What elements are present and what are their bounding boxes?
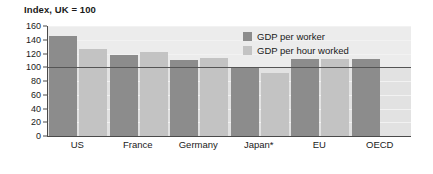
bar	[352, 59, 380, 136]
y-tick-label-100: 100	[0, 62, 41, 72]
bar	[170, 60, 198, 136]
x-axis-label-france: France	[108, 139, 169, 150]
legend-swatch-icon-gdp-per-hour-worked	[243, 46, 252, 55]
y-tick-label-80: 80	[0, 76, 41, 86]
y-tick-mark-160	[43, 26, 47, 27]
legend-item-gdp-per-hour-worked: GDP per hour worked	[243, 44, 349, 57]
bar	[79, 49, 107, 136]
x-axis-label-us: US	[47, 139, 108, 150]
x-axis-label-oecd: OECD	[350, 139, 411, 150]
bar-group	[351, 26, 412, 136]
y-tick-mark-0	[43, 136, 47, 137]
x-axis-label-eu: EU	[289, 139, 350, 150]
y-tick-mark-20	[43, 122, 47, 123]
legend-swatch-icon-gdp-per-worker	[243, 32, 252, 41]
y-tick-mark-40	[43, 108, 47, 109]
y-tick-mark-60	[43, 94, 47, 95]
x-axis-line	[47, 136, 411, 137]
y-tick-label-0: 0	[0, 131, 41, 141]
chart-title: Index, UK = 100	[24, 4, 96, 15]
bar-group	[169, 26, 230, 136]
y-tick-mark-80	[43, 81, 47, 82]
gridline-100	[48, 67, 411, 68]
legend-label-gdp-per-worker: GDP per worker	[257, 31, 325, 42]
bar	[231, 67, 259, 136]
y-tick-label-120: 120	[0, 49, 41, 59]
bar-group	[109, 26, 170, 136]
y-tick-label-140: 140	[0, 35, 41, 45]
bar	[321, 59, 349, 136]
bar-group	[48, 26, 109, 136]
plot-area	[47, 26, 411, 136]
y-tick-mark-140	[43, 39, 47, 40]
x-axis-label-japan: Japan*	[229, 139, 290, 150]
bar	[49, 36, 77, 136]
bar	[140, 52, 168, 136]
chart-legend: GDP per worker GDP per hour worked	[243, 30, 349, 58]
bar	[291, 59, 319, 136]
legend-label-gdp-per-hour-worked: GDP per hour worked	[257, 45, 349, 56]
y-tick-mark-120	[43, 53, 47, 54]
y-tick-label-60: 60	[0, 90, 41, 100]
legend-item-gdp-per-worker: GDP per worker	[243, 30, 349, 43]
bar	[200, 58, 228, 136]
y-tick-label-40: 40	[0, 104, 41, 114]
y-tick-label-20: 20	[0, 117, 41, 127]
gdp-productivity-bar-chart: Index, UK = 100 020406080100120140160 US…	[0, 0, 433, 174]
y-tick-label-160: 160	[0, 21, 41, 31]
bar	[261, 73, 289, 136]
x-axis-label-germany: Germany	[168, 139, 229, 150]
y-tick-mark-100	[43, 67, 47, 68]
